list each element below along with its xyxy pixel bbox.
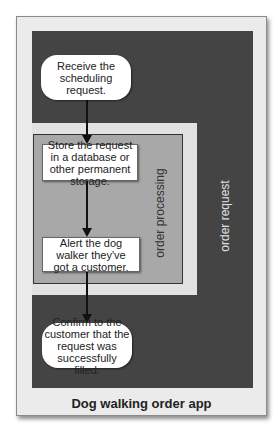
order-request-label: order request [218,166,232,266]
connector-alert-confirm [86,272,88,314]
node-confirm-label: Confirm to the customer that the request… [44,316,130,376]
connector-store-alert [86,181,88,228]
connector-receive-store [86,100,88,135]
node-alert-label: Alert the dog walker they've got a custo… [51,237,131,273]
diagram-title: Dog walking order app [16,396,267,411]
node-alert: Alert the dog walker they've got a custo… [42,237,140,272]
node-store-label: Store the request in a database or other… [45,139,135,187]
node-receive: Receive the scheduling request. [41,55,131,100]
node-confirm: Confirm to the customer that the request… [42,323,132,368]
node-receive-label: Receive the scheduling request. [55,60,117,96]
order-processing-label: order processing [153,163,167,263]
node-store: Store the request in a database or other… [42,144,138,181]
